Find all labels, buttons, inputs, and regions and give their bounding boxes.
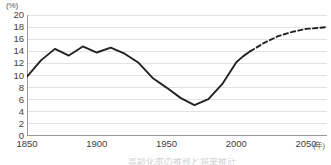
y-axis-tick-label: 12 <box>13 59 24 69</box>
gridlines <box>27 15 327 124</box>
y-axis-tick-label: 8 <box>19 83 24 93</box>
y-axis-tick-label: 14 <box>13 47 24 57</box>
y-axis-tick-label: 2 <box>19 119 24 129</box>
plot-area <box>27 15 327 136</box>
x-axis-tick-label: 1900 <box>86 139 107 149</box>
y-axis-tick-label: 6 <box>19 95 24 105</box>
x-axis-tick-labels: 18501900195020002050 <box>0 139 331 153</box>
y-axis-tick-label: 20 <box>13 10 24 20</box>
y-axis-tick-labels: 02468101214161820 <box>0 15 24 136</box>
line-chart: (%) 02468101214161820 185019001950200020… <box>0 0 331 165</box>
x-axis-tick-label: 1950 <box>156 139 177 149</box>
y-axis-tick-label: 10 <box>13 71 24 81</box>
x-axis-tick-label: 1850 <box>16 139 37 149</box>
caption-strip: 高齢化率の推移と将来推計 <box>0 158 331 165</box>
y-axis-tick-label: 16 <box>13 34 24 44</box>
y-axis-tick-label: 4 <box>19 107 24 117</box>
y-axis-tick-label: 18 <box>13 22 24 32</box>
chart-canvas <box>27 15 327 136</box>
x-axis-unit-label: (年) <box>313 141 325 150</box>
x-axis-tick-label: 2000 <box>226 139 247 149</box>
chart-caption: 高齢化率の推移と将来推計 <box>128 158 236 165</box>
